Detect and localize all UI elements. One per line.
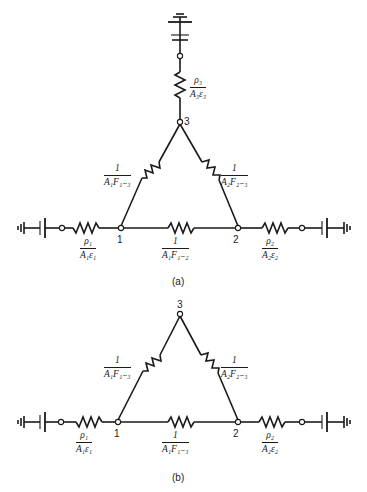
node-1-label-b: 1	[114, 428, 120, 439]
resistor-r13-label-a: 1 A₁F₁₋₃	[104, 163, 131, 188]
diagram-a-nodes	[59, 53, 304, 230]
resistor-r1-label-b: ρ₁ A₁ε₁	[76, 430, 92, 455]
resistor-r3-label-a: ρ₃ A₃ε₃	[190, 75, 206, 100]
node-2-label-a: 2	[233, 234, 239, 245]
resistor-r13-label-b: 1 A₁F₁₋₃	[104, 355, 131, 380]
resistor-r2-label-a: ρ₂ A₂ε₂	[262, 236, 278, 261]
resistor-r23-label-b: 1 A₂F₂₋₃	[221, 355, 248, 380]
resistor-r12-label-b: 1 A₁F₁₋₃	[162, 430, 189, 455]
diagram-b-wiring	[18, 316, 350, 432]
caption-b: (b)	[172, 472, 184, 483]
diagram-b-nodes	[58, 311, 304, 424]
resistor-r1-label-a: ρ₁ A₁ε₁	[80, 236, 96, 261]
resistor-r12-label-a: 1 A₁F₁₋₂	[162, 236, 189, 261]
resistor-r2-label-b: ρ₂ A₂ε₂	[262, 430, 278, 455]
node-2-label-b: 2	[233, 428, 239, 439]
resistor-r23-label-a: 1 A₂F₂₋₃	[221, 163, 248, 188]
node-1-label-a: 1	[117, 234, 123, 245]
node-3-label-b: 3	[177, 299, 183, 310]
caption-a: (a)	[172, 276, 184, 287]
node-3-label-a: 3	[184, 116, 190, 127]
